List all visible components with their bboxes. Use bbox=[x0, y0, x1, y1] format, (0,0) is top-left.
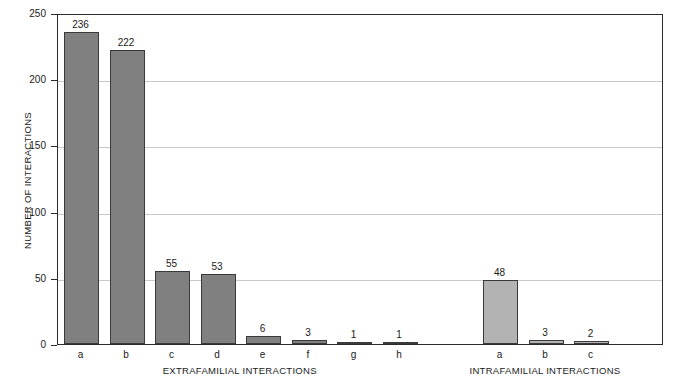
y-tick-label: 200 bbox=[0, 74, 46, 85]
bar bbox=[574, 341, 609, 344]
gridline bbox=[58, 214, 662, 215]
y-axis-title: NUMBER OF INTERACTIONS bbox=[22, 81, 33, 281]
y-tick-mark bbox=[51, 345, 57, 346]
bar-value-label: 2 bbox=[563, 328, 618, 339]
bar bbox=[483, 280, 518, 344]
group-title-intrafamilial: INTRAFAMILIAL INTERACTIONS bbox=[422, 365, 668, 376]
bar-chart: NUMBER OF INTERACTIONS 050100150200250 2… bbox=[0, 0, 675, 390]
bar-value-label: 1 bbox=[372, 329, 427, 340]
plot-area bbox=[57, 14, 663, 345]
bar bbox=[246, 336, 281, 344]
bar bbox=[337, 342, 372, 345]
bar-value-label: 236 bbox=[53, 19, 108, 30]
bar bbox=[110, 50, 145, 344]
group-title-extrafamilial: EXTRAFAMILIAL INTERACTIONS bbox=[3, 365, 477, 376]
bar bbox=[201, 274, 236, 344]
bar-value-label: 222 bbox=[99, 37, 154, 48]
bar bbox=[529, 340, 564, 344]
bar bbox=[155, 271, 190, 344]
bar bbox=[383, 342, 418, 345]
gridline bbox=[58, 280, 662, 281]
y-tick-label: 150 bbox=[0, 140, 46, 151]
gridline bbox=[58, 147, 662, 148]
bar bbox=[292, 340, 327, 344]
bar-value-label: 53 bbox=[190, 261, 245, 272]
bar-value-label: 48 bbox=[472, 267, 527, 278]
y-tick-label: 0 bbox=[0, 339, 46, 350]
y-tick-label: 50 bbox=[0, 273, 46, 284]
y-tick-label: 250 bbox=[0, 8, 46, 19]
y-tick-label: 100 bbox=[0, 207, 46, 218]
x-category-label: c bbox=[563, 349, 618, 360]
bar bbox=[64, 32, 99, 344]
gridline bbox=[58, 81, 662, 82]
x-category-label: h bbox=[372, 349, 427, 360]
